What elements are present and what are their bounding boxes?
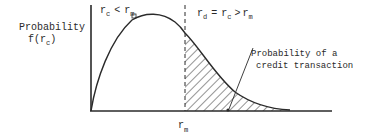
shaded-area-label-line1: Probability of a	[251, 49, 338, 59]
leader-dot	[226, 108, 229, 111]
x-marker-rm: rm	[178, 120, 188, 134]
right-region-label: rd=rc>rm	[197, 8, 253, 21]
probability-distribution-diagram: Probability f(rc) rc<rm rd=rc>rm Probabi…	[0, 0, 371, 139]
y-axis-label-function: f(rc)	[28, 34, 56, 47]
shaded-area-label-line2: credit transaction	[256, 61, 353, 71]
shaded-credit-region	[185, 33, 288, 111]
left-region-label: rc<rm	[100, 5, 134, 18]
y-axis-label-probability: Probability	[19, 22, 85, 33]
